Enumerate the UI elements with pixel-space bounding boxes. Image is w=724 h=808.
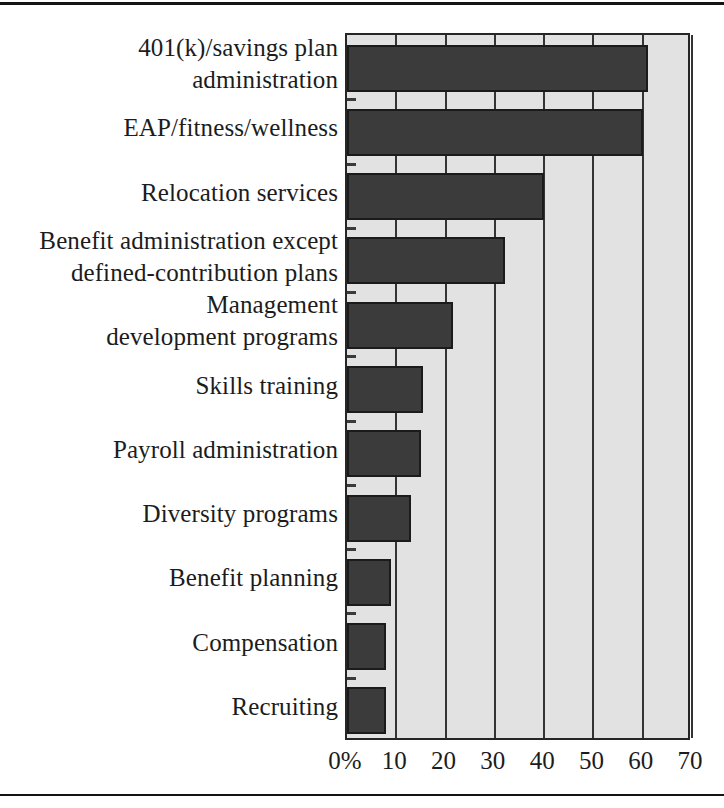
category-label: Compensation	[8, 627, 338, 659]
x-tick-label-40: 40	[530, 746, 555, 776]
x-tick-label-0: 0%	[328, 746, 361, 776]
category-label: EAP/fitness/wellness	[8, 112, 338, 144]
category-label: Benefit planning	[8, 562, 338, 594]
x-tick-label-10: 10	[382, 746, 407, 776]
x-tick-label-20: 20	[431, 746, 456, 776]
x-tick-label-50: 50	[579, 746, 604, 776]
category-label: Diversity programs	[8, 498, 338, 530]
bar-chart-figure: 401(k)/savings plan administrationEAP/fi…	[0, 0, 724, 808]
category-label: Payroll administration	[8, 434, 338, 466]
category-axis-labels: 401(k)/savings plan administrationEAP/fi…	[0, 0, 724, 808]
category-label: Recruiting	[8, 691, 338, 723]
x-tick-label-70: 70	[678, 746, 703, 776]
x-tick-label-60: 60	[628, 746, 653, 776]
category-label: Management development programs	[8, 289, 338, 353]
x-tick-label-30: 30	[480, 746, 505, 776]
category-label: Skills training	[8, 370, 338, 402]
category-label: 401(k)/savings plan administration	[8, 32, 338, 96]
x-axis-tick-labels: 0%10203040506070	[0, 746, 724, 780]
category-label: Relocation services	[8, 177, 338, 209]
category-label: Benefit administration except defined-co…	[8, 225, 338, 289]
